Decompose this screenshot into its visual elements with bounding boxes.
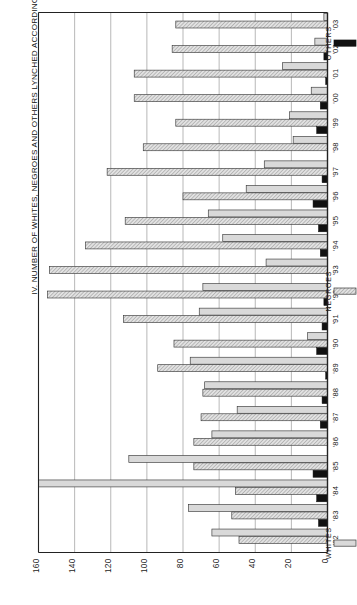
year-label-1889: '89 [331,363,340,374]
year-label-1900: '00 [331,93,340,104]
year-label-1891: '91 [331,314,340,325]
value-axis-tick-labels: 020406080100120140160 [31,558,330,573]
bar-negroes-1902 [172,46,327,53]
year-label-1887: '87 [331,412,340,423]
legend-label-whites: WHITES [325,527,332,559]
value-tick-label: 120 [103,558,113,573]
bar-negroes-1882 [239,537,328,544]
bar-whites-1898 [293,136,327,143]
bar-whites-1887 [237,406,327,413]
bar-others-1883 [318,519,327,526]
bar-negroes-1883 [232,512,328,519]
value-tick-label: 100 [139,558,149,573]
bar-others-1896 [313,200,327,207]
bar-whites-1896 [246,185,327,192]
bar-negroes-1889 [158,365,328,372]
bar-whites-1891 [199,308,327,315]
bar-others-1899 [317,127,328,134]
legend-label-others: OTHERS [325,26,332,60]
year-label-1888: '88 [331,388,340,399]
legend-swatch-others [334,40,356,46]
value-tick-label: 160 [31,558,41,573]
chart-plot-area: 020406080100120140160 '82'83'84'85'86'87… [0,0,357,605]
bar-negroes-1901 [134,70,327,77]
bar-whites-1897 [264,161,327,168]
bar-whites-1885 [129,455,328,462]
legend-swatch-whites [334,540,356,546]
bar-whites-1895 [208,210,327,217]
bar-negroes-1887 [201,414,327,421]
value-tick-label: 40 [247,558,257,568]
bar-negroes-1898 [143,144,327,151]
year-label-1884: '84 [331,486,340,497]
bar-whites-1882 [212,529,328,536]
bar-negroes-1893 [49,267,327,274]
bar-negroes-1888 [203,389,328,396]
bar-negroes-1890 [174,340,328,347]
bar-whites-1883 [188,505,327,512]
value-tick-label: 60 [211,558,221,568]
bar-others-1894 [320,249,327,256]
bar-whites-1884 [39,480,328,487]
year-label-1898: '98 [331,142,340,153]
year-label-1886: '86 [331,437,340,448]
year-label-1894: '94 [331,240,340,251]
bar-whites-1888 [205,382,328,389]
bar-others-1884 [317,495,328,502]
value-tick-label: 80 [175,558,185,568]
bar-negroes-1892 [48,291,328,298]
year-label-1890: '90 [331,339,340,350]
bar-others-1890 [317,348,328,355]
legend-label-negroes: NEGROES [325,271,332,312]
legend-swatch-negroes [334,288,356,294]
bar-negroes-1885 [194,463,328,470]
bar-negroes-1899 [176,119,328,126]
bar-negroes-1900 [134,95,327,102]
bar-whites-1900 [311,87,327,94]
bar-whites-1890 [308,333,328,340]
bar-whites-1889 [190,357,327,364]
bar-negroes-1903 [176,21,328,28]
bar-negroes-1884 [235,487,327,494]
bar-whites-1899 [290,112,328,119]
bar-whites-1901 [282,63,327,70]
bar-others-1895 [318,225,327,232]
bar-negroes-1894 [85,242,327,249]
year-label-1885: '85 [331,461,340,472]
year-label-1896: '96 [331,191,340,202]
year-label-1897: '97 [331,167,340,178]
bar-others-1900 [320,102,327,109]
gridlines [39,13,292,553]
lynching-statistics-chart-figure: IV. NUMBER OF WHITES, NEGROES AND OTHERS… [0,0,357,605]
legend: WHITESNEGROESOTHERS [325,26,356,559]
year-label-1901: '01 [331,69,340,80]
page-title: IV. NUMBER OF WHITES, NEGROES AND OTHERS… [30,0,39,295]
bar-others-1897 [322,176,327,183]
bar-whites-1893 [266,259,327,266]
year-label-1899: '99 [331,118,340,129]
year-label-1883: '83 [331,510,340,521]
bar-whites-1894 [223,235,328,242]
bar-whites-1892 [203,284,328,291]
value-tick-label: 140 [67,558,77,573]
bar-others-1888 [322,397,327,404]
bar-others-1885 [313,470,327,477]
bar-negroes-1896 [183,193,328,200]
bar-negroes-1891 [123,316,327,323]
bar-negroes-1897 [107,168,327,175]
year-label-1895: '95 [331,216,340,227]
bar-others-1887 [320,421,327,428]
bar-negroes-1895 [125,217,327,224]
bar-others-1891 [322,323,327,330]
bar-negroes-1886 [194,438,328,445]
value-tick-label: 20 [283,558,293,568]
bar-whites-1886 [212,431,328,438]
